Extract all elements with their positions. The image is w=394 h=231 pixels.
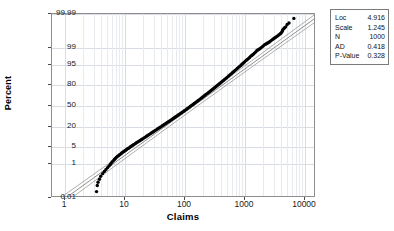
- stats-row: Scale1.245: [335, 23, 385, 33]
- x-tick-mark: [64, 197, 65, 200]
- stats-key: AD: [335, 42, 345, 52]
- data-point: [96, 184, 99, 187]
- y-tick-mark: [48, 146, 51, 147]
- y-tick-label: 95: [67, 60, 76, 68]
- stats-row: Loc4.916: [335, 13, 385, 23]
- stats-row: AD0.418: [335, 42, 385, 52]
- y-tick-mark: [48, 197, 51, 198]
- y-tick-mark: [48, 126, 51, 127]
- data-point: [95, 190, 98, 193]
- y-tick-mark: [48, 47, 51, 48]
- y-axis-title: Percent: [3, 63, 13, 123]
- y-tick-label: 99.99: [56, 9, 76, 17]
- y-tick-mark: [48, 84, 51, 85]
- data-point: [292, 17, 295, 20]
- y-tick-label: 5: [72, 142, 76, 150]
- data-point: [287, 21, 290, 24]
- x-axis-title: Claims: [51, 211, 315, 222]
- y-tick-mark: [48, 13, 51, 14]
- stats-value: 0.328: [367, 51, 385, 61]
- probability-plot-figure: 99.999995805020510.01 110100100010000 Pe…: [0, 0, 394, 231]
- y-tick-mark: [48, 105, 51, 106]
- x-tick-label: 10: [119, 200, 128, 209]
- x-tick-label: 100: [177, 200, 191, 209]
- stats-key: N: [335, 32, 340, 42]
- stats-value: 1000: [369, 32, 385, 42]
- y-tick-label: 1: [72, 159, 76, 167]
- y-tick-mark: [48, 163, 51, 164]
- x-tick-label: 1000: [235, 200, 254, 209]
- y-tick-mark: [48, 64, 51, 65]
- data-point: [98, 178, 101, 181]
- stats-row: N1000: [335, 32, 385, 42]
- x-tick-label: 10000: [292, 200, 316, 209]
- stats-value: 4.916: [367, 13, 385, 23]
- x-tick-mark: [304, 197, 305, 200]
- data-series-layer: [52, 14, 314, 196]
- statistics-legend-box: Loc4.916Scale1.245N1000AD0.418P-Value0.3…: [330, 9, 389, 65]
- confidence-band-lower: [63, 14, 315, 196]
- x-tick-label: 1: [62, 200, 67, 209]
- chart-title: [51, 0, 315, 5]
- y-tick-label: 50: [67, 101, 76, 109]
- stats-key: P-Value: [335, 51, 359, 61]
- stats-value: 1.245: [367, 23, 385, 33]
- x-tick-mark: [244, 197, 245, 200]
- x-tick-mark: [124, 197, 125, 200]
- stats-value: 0.418: [367, 42, 385, 52]
- x-tick-mark: [184, 197, 185, 200]
- stats-key: Scale: [335, 23, 353, 33]
- stats-key: Loc: [335, 13, 346, 23]
- y-tick-label: 99: [67, 43, 76, 51]
- y-tick-label: 80: [67, 80, 76, 88]
- y-tick-label: 20: [67, 122, 76, 130]
- plot-area: [51, 13, 315, 197]
- stats-row: P-Value0.328: [335, 51, 385, 61]
- data-point: [96, 181, 99, 184]
